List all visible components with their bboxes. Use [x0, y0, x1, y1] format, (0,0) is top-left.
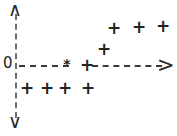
origin-label: 0	[3, 56, 13, 71]
plus-marker: +	[107, 20, 121, 37]
axis-arrow-right-icon: >	[157, 55, 175, 76]
plot-figure: ∧ ∨ > 0 +++++++++*	[0, 0, 177, 136]
plus-marker: +	[132, 19, 146, 36]
vertical-axis	[15, 14, 17, 118]
plus-marker: +	[80, 57, 94, 74]
horizontal-axis-right-segment	[92, 65, 162, 67]
plus-marker: +	[156, 18, 170, 35]
axis-arrow-up-icon: ∧	[8, 0, 22, 19]
plus-marker: +	[81, 80, 95, 97]
plus-marker: +	[20, 80, 34, 97]
axis-arrow-down-icon: ∨	[8, 112, 22, 131]
star-marker: *	[63, 57, 70, 71]
plus-marker: +	[58, 80, 72, 97]
plus-marker: +	[40, 80, 54, 97]
horizontal-axis-left-segment	[19, 65, 69, 67]
plus-marker: +	[97, 41, 111, 58]
